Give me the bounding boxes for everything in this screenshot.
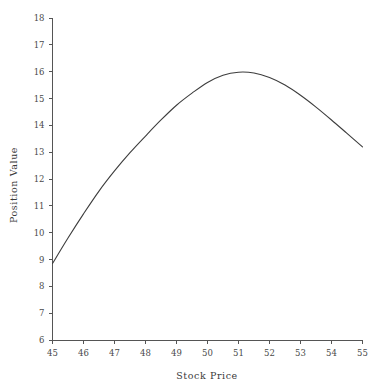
y-tick-label: 8 xyxy=(39,281,44,291)
y-tick-label: 6 xyxy=(39,335,44,345)
chart-canvas: 6789101112131415161718 45464748495051525… xyxy=(0,0,378,387)
y-tick-label: 9 xyxy=(39,255,44,265)
y-tick-label: 10 xyxy=(34,228,45,238)
x-tick-label: 55 xyxy=(357,348,368,358)
x-tick-label: 45 xyxy=(47,348,58,358)
y-axis: 6789101112131415161718 xyxy=(34,13,53,345)
x-tick-label: 48 xyxy=(140,348,151,358)
x-axis-title: Stock Price xyxy=(176,370,238,381)
x-tick-label: 46 xyxy=(78,348,89,358)
x-tick-label: 51 xyxy=(233,348,244,358)
x-tick-label: 49 xyxy=(171,348,182,358)
x-tick-label: 50 xyxy=(202,348,213,358)
y-tick-label: 16 xyxy=(34,67,45,77)
position-value-chart: 6789101112131415161718 45464748495051525… xyxy=(0,0,378,387)
y-tick-label: 14 xyxy=(34,120,45,130)
y-tick-label: 15 xyxy=(34,94,45,104)
x-axis: 4546474849505152535455 xyxy=(47,340,368,358)
series-path-position-value xyxy=(53,72,363,263)
y-tick-label: 11 xyxy=(34,201,45,211)
x-tick-label: 53 xyxy=(295,348,306,358)
y-axis-title: Position Value xyxy=(8,147,19,223)
x-tick-label: 54 xyxy=(326,348,337,358)
y-tick-label: 18 xyxy=(34,13,45,23)
y-tick-label: 12 xyxy=(34,174,45,184)
y-tick-label: 17 xyxy=(34,40,45,50)
y-tick-label: 13 xyxy=(34,147,45,157)
y-tick-label: 7 xyxy=(39,308,44,318)
data-series-line xyxy=(53,72,363,263)
x-tick-label: 52 xyxy=(264,348,275,358)
x-tick-label: 47 xyxy=(109,348,120,358)
